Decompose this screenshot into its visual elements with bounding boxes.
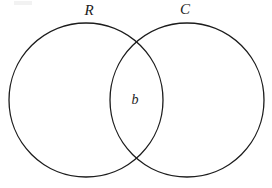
venn-diagram-canvas: R C b bbox=[0, 0, 272, 188]
set-label-left: R bbox=[83, 2, 93, 18]
set-label-right: C bbox=[180, 1, 191, 17]
region-label-intersection: b bbox=[132, 92, 139, 107]
scan-artifact-smudge bbox=[14, 1, 32, 5]
venn-diagram-figure: R C b bbox=[0, 0, 272, 188]
set-circle-left bbox=[9, 23, 163, 177]
